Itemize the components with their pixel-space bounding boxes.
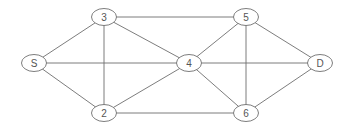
- edge-S-3: [34, 17, 104, 63]
- node-label: 4: [186, 58, 192, 69]
- edge-4-5: [189, 17, 246, 63]
- node-5: 5: [234, 9, 259, 26]
- node-label: 3: [101, 12, 107, 23]
- node-label: S: [31, 58, 38, 69]
- edge-4-6: [189, 63, 246, 113]
- edge-S-2: [34, 63, 104, 113]
- network-graph: S32456D: [0, 0, 348, 130]
- edge-5-D: [246, 17, 320, 63]
- edge-6-D: [246, 63, 320, 113]
- node-label: 5: [243, 12, 249, 23]
- edge-2-4: [104, 63, 189, 113]
- node-label: D: [316, 58, 323, 69]
- node-2: 2: [92, 105, 117, 122]
- node-label: 6: [243, 108, 249, 119]
- node-4: 4: [177, 55, 202, 72]
- nodes-layer: S32456D: [22, 9, 333, 122]
- edge-3-4: [104, 17, 189, 63]
- node-S: S: [22, 55, 47, 72]
- node-D: D: [308, 55, 333, 72]
- node-6: 6: [234, 105, 259, 122]
- node-label: 2: [101, 108, 107, 119]
- node-3: 3: [92, 9, 117, 26]
